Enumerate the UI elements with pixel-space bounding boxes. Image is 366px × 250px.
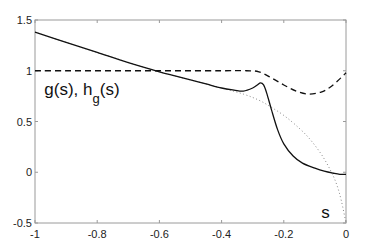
- axes-box: [35, 20, 346, 223]
- plot-area: [35, 20, 346, 223]
- x-axis-label-s: s: [321, 203, 330, 222]
- y-tick-label: 1.5: [17, 14, 32, 26]
- y-axis-tick-labels: -0.500.511.5: [13, 14, 32, 229]
- x-tick-label: -0.4: [212, 228, 231, 240]
- y-tick-label: 1: [26, 65, 32, 77]
- x-tick-label: -0.2: [274, 228, 293, 240]
- y-tick-label: 0: [26, 166, 32, 178]
- y-tick-label: -0.5: [13, 217, 32, 229]
- line-chart: -1-0.8-0.6-0.4-0.20 -0.500.511.5 g(s), h…: [0, 0, 366, 250]
- x-axis-tick-labels: -1-0.8-0.6-0.4-0.20: [30, 228, 349, 240]
- x-tick-label: 0: [343, 228, 349, 240]
- x-tick-label: -1: [30, 228, 40, 240]
- y-tick-label: 0.5: [17, 116, 32, 128]
- x-tick-label: -0.6: [150, 228, 169, 240]
- x-tick-label: -0.8: [88, 228, 107, 240]
